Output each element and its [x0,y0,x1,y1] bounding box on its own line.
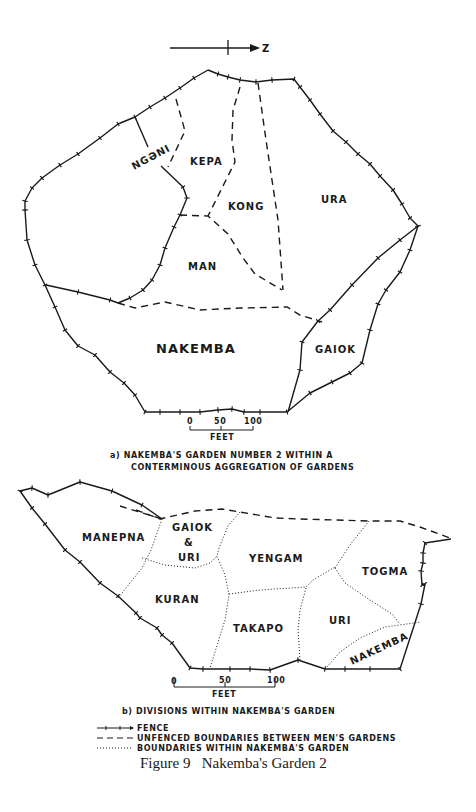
division-label-uri-1: URI [178,552,201,563]
garden-label-kepa: KEPA [190,156,223,167]
dashed-man-nakemba [118,302,322,322]
division-label-gaiok: GAIOK [172,522,213,533]
north-arrow: Z [170,40,270,55]
division-label-uri-2: URI [329,615,352,626]
garden-label-ura: URA [321,194,348,205]
dashed-kong-man [180,215,282,290]
north-label: Z [262,43,270,54]
fence-outer-a [25,70,418,412]
garden-label-ngani: NGƏNI [130,142,172,172]
division-label-yengam: YENGAM [248,553,303,564]
fence-ngani-a [135,117,148,147]
scale-a-0: 0 [187,417,193,426]
scale-b-50: 50 [219,676,231,685]
scale-a-50: 50 [214,417,226,426]
dashed-kepa-kong [208,87,240,216]
caption-a-line2: CONTERMINOUS AGGREGATION OF GARDENS [131,463,354,472]
dotted-kuran-takapo [229,567,335,594]
legend-boundaries-label: BOUNDARIES WITHIN NAKEMBA'S GARDEN [137,744,349,753]
figure-title: Figure 9 Nakemba's Garden 2 [140,755,327,771]
dashed-ngani-kepa [168,99,185,167]
map-a: NGƏNI KEPA KONG URA MAN NAKEMBA GAIOK 0 … [25,70,418,472]
fence-man-left [46,285,118,303]
scale-b-100: 100 [267,676,286,685]
figure-canvas: Z NGƏNI KEPA KONG URA MAN NAKEMBA GAIOK … [0,0,476,812]
garden-label-kong: KONG [228,201,264,212]
caption-b: b) DIVISIONS WITHIN NAKEMBA'S GARDEN [122,707,335,716]
garden-label-man: MAN [188,261,217,272]
dotted-yengam-togma [335,521,369,568]
scale-bar-a: 0 50 100 FEET [187,417,263,442]
legend-unfenced-label: UNFENCED BOUNDARIES BETWEEN MEN'S GARDEN… [137,734,396,743]
division-label-takapo: TAKAPO [233,623,284,634]
division-label-kuran: KURAN [155,594,200,605]
garden-label-gaiok: GAIOK [315,344,356,355]
scale-b-unit: FEET [212,690,236,699]
dashed-kong-ura [258,83,283,290]
division-label-nakemba: NAKEMBA [348,630,410,667]
map-b: MANEPNA GAIOK & URI YENGAM TOGMA KURAN T… [20,482,451,716]
dotted-manepna-kuran [118,519,162,598]
scale-a-100: 100 [244,417,263,426]
fence-left-block [118,166,187,303]
dotted-gaiok-yengam [210,512,240,668]
garden-label-nakemba: NAKEMBA [156,341,236,356]
scale-a-unit: FEET [210,433,234,442]
fence-gaiok-top [288,226,418,412]
dotted-takapo-uri [298,588,306,660]
legend: FENCE UNFENCED BOUNDARIES BETWEEN MEN'S … [97,724,396,753]
scale-bar-b: 0 50 100 FEET [171,676,286,699]
division-label-ampersand: & [184,537,194,548]
legend-fence-label: FENCE [137,724,169,733]
scale-b-0: 0 [171,677,177,686]
caption-a-line1: a) NAKEMBA'S GARDEN NUMBER 2 WITHIN A [110,451,333,460]
division-label-manepna: MANEPNA [82,532,145,543]
division-label-togma: TOGMA [362,566,408,577]
